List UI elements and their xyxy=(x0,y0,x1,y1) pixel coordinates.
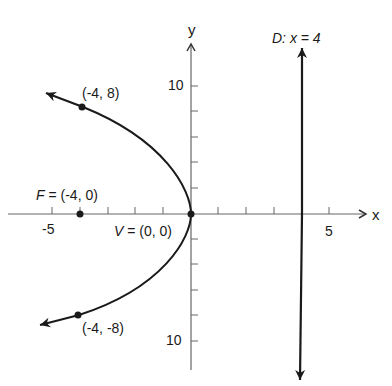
vertex-label: V = (0, 0) xyxy=(114,224,172,238)
focus-label: F = (-4, 0) xyxy=(36,188,98,202)
focus-label-eq: = (-4, 0) xyxy=(48,187,97,203)
x-axis-label: x xyxy=(372,207,380,222)
x-tick-label-5: 5 xyxy=(325,224,333,238)
lower-point-label: (-4, -8) xyxy=(82,321,124,335)
lower-point xyxy=(75,312,82,319)
focus-label-prefix: F xyxy=(36,187,45,203)
x-tick-label-neg5: -5 xyxy=(42,222,54,236)
y-tick-label-10: 10 xyxy=(168,78,184,92)
directrix-label-prefix: D: xyxy=(272,30,286,46)
focus-point xyxy=(77,211,84,218)
vertex-point xyxy=(188,211,195,218)
y-axis xyxy=(191,44,198,370)
x-axis xyxy=(8,207,366,214)
upper-point xyxy=(79,104,86,111)
vertex-label-eq: = (0, 0) xyxy=(127,223,172,239)
parabola-curve xyxy=(40,93,191,325)
upper-point-label: (-4, 8) xyxy=(82,86,119,100)
y-axis-label: y xyxy=(188,22,196,37)
directrix-label-eq: x = 4 xyxy=(290,30,321,46)
vertex-label-prefix: V xyxy=(114,223,123,239)
y-tick-label-neg10: 10 xyxy=(166,333,182,347)
directrix-label: D: x = 4 xyxy=(272,31,321,45)
